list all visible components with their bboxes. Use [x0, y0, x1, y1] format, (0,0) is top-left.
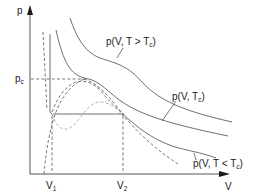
- pv-diagram: p V pc V1 V2 p(V, T > Tc) p(V, Tc) p(V, …: [0, 0, 256, 196]
- isotherm-below-tc-right: [123, 114, 216, 158]
- x-axis-label: V: [225, 181, 232, 192]
- pc-label: pc: [15, 73, 25, 85]
- leader-above-tc: [117, 48, 123, 58]
- isotherm-below-tc: [50, 34, 52, 114]
- axes: [27, 5, 230, 177]
- y-axis-arrow-icon: [27, 5, 33, 15]
- label-above-tc: p(V, T > Tc): [106, 36, 156, 48]
- y-axis-label: p: [17, 5, 23, 16]
- leader-at-tc: [162, 101, 176, 121]
- isotherm-above-tc: [70, 18, 232, 122]
- x-axis-arrow-icon: [219, 171, 230, 177]
- label-at-tc: p(V, Tc): [172, 91, 205, 103]
- left-dashed-branch: [43, 32, 47, 110]
- v1-label: V1: [46, 180, 57, 192]
- label-below-tc: p(V, T < Tc): [193, 158, 243, 170]
- v2-label: V2: [117, 180, 128, 192]
- vdw-loop: [52, 102, 126, 129]
